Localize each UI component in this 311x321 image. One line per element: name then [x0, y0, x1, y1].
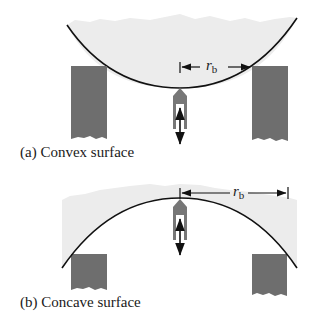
left-support-block [71, 66, 107, 139]
diagram-canvas: rb (a) Convex surface rb (b) Conca [0, 0, 311, 321]
svg-text:rb: rb [233, 183, 245, 201]
right-support-block [252, 66, 288, 141]
panel-a-convex: rb (a) Convex surface [20, 14, 297, 161]
panel-b-concave: rb (b) Concave surface [20, 183, 297, 311]
dimension-subscript-b: b [239, 189, 245, 201]
right-support-block [252, 254, 287, 296]
dimension-subscript-b: b [212, 63, 218, 75]
caption-convex: (a) Convex surface [20, 144, 134, 161]
left-support-block [71, 254, 107, 290]
probe-indicator [173, 88, 187, 144]
probe-indicator [173, 199, 187, 255]
caption-concave: (b) Concave surface [20, 294, 141, 311]
